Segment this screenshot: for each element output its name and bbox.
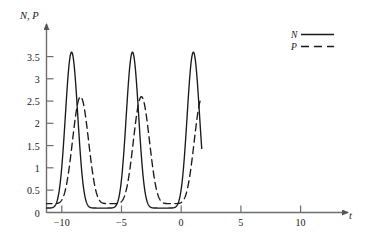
y-tick-label: 3.5	[10, 51, 40, 62]
legend-label-P: P	[291, 42, 297, 52]
y-tick-label: 1.5	[10, 140, 40, 151]
x-axis-label: t	[349, 210, 352, 221]
y-tick-label: 1	[10, 162, 40, 173]
y-tick-label: 0	[10, 207, 40, 218]
plot-canvas	[0, 0, 371, 240]
y-axis-ticks	[47, 57, 54, 191]
chart-figure: N, P t 0 0.5 1 1.5 2 2.5 3 3.5 −10 −5 0 …	[0, 0, 371, 240]
x-tick-label: 5	[238, 217, 243, 228]
x-tick-label: 10	[295, 217, 305, 228]
x-tick-label: 0	[179, 217, 184, 228]
y-tick-label: 0.5	[10, 185, 40, 196]
y-tick-label: 2.5	[10, 96, 40, 107]
x-tick-label: −10	[54, 217, 70, 228]
y-tick-label: 2	[10, 118, 40, 129]
x-axis-ticks	[62, 206, 301, 213]
x-tick-label: −5	[116, 217, 127, 228]
y-axis-label: N, P	[20, 10, 39, 21]
legend-swatches	[301, 35, 334, 47]
legend-label-N: N	[291, 30, 297, 40]
y-tick-label: 3	[10, 73, 40, 84]
